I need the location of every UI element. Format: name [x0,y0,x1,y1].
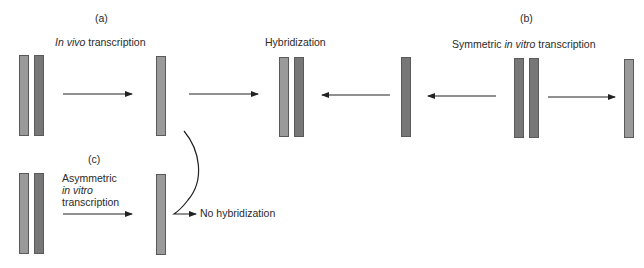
arrows-layer [0,0,644,268]
curve-no-hybridization [174,131,199,214]
